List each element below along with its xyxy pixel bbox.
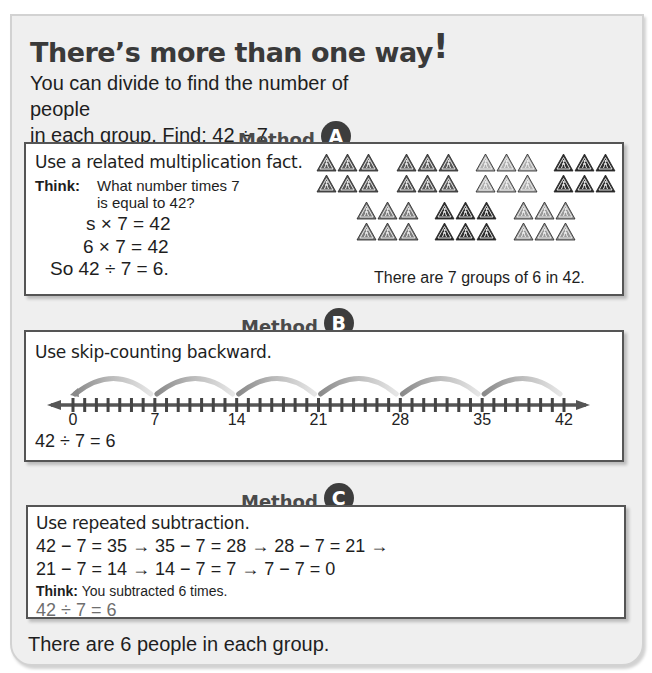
pedestrian-warning-sign-icon (337, 174, 358, 193)
page-title: There’s more than one way! (30, 30, 448, 70)
jump-arc (239, 379, 315, 395)
pedestrian-warning-sign-icon (438, 174, 459, 193)
pedestrian-warning-sign-icon (358, 153, 379, 172)
equation-2: 6 × 7 = 42 (83, 235, 169, 258)
title-exclaim: ! (433, 26, 448, 66)
tick-mark (282, 398, 285, 412)
people-group (434, 201, 497, 241)
people-group (475, 153, 538, 193)
pedestrian-warning-sign-icon (417, 153, 438, 172)
tick-mark (223, 398, 226, 412)
tick-mark (457, 398, 460, 412)
think-label: Think: (35, 177, 97, 194)
tick-mark (72, 398, 75, 412)
tick-mark (551, 398, 554, 412)
jump-arc (402, 379, 478, 395)
pedestrian-warning-sign-icon (475, 153, 496, 172)
pedestrian-warning-sign-icon (396, 174, 417, 193)
tick-mark (305, 398, 308, 412)
pedestrian-warning-sign-icon (595, 174, 616, 193)
tick-mark (399, 398, 402, 412)
pedestrian-warning-sign-icon (398, 201, 419, 220)
pedestrian-warning-sign-icon (476, 222, 497, 241)
tick-mark (83, 398, 86, 412)
tick-mark (516, 398, 519, 412)
pedestrian-warning-sign-icon (513, 201, 534, 220)
tick-mark (411, 398, 414, 412)
tick-mark (469, 398, 472, 412)
tick-mark (317, 398, 320, 412)
arrow-head-icon (70, 388, 79, 397)
method-a-heading: Use a related multiplication fact. (35, 152, 303, 172)
tick-mark (153, 398, 156, 412)
think-text: You subtracted 6 times. (82, 583, 228, 599)
tick-mark (539, 398, 542, 412)
tick-mark (446, 398, 449, 412)
jump-arc (157, 379, 233, 395)
tick-mark (107, 398, 110, 412)
tick-mark (527, 398, 530, 412)
people-group (396, 153, 459, 193)
pedestrian-warning-sign-icon (358, 174, 379, 193)
tick-mark (165, 398, 168, 412)
pedestrian-warning-sign-icon (595, 153, 616, 172)
pedestrian-warning-sign-icon (555, 222, 576, 241)
pedestrian-warning-sign-icon (337, 153, 358, 172)
tick-mark (340, 398, 343, 412)
groups-caption: There are 7 groups of 6 in 42. (374, 269, 585, 287)
pedestrian-warning-sign-icon (574, 174, 595, 193)
tick-mark (422, 398, 425, 412)
tick-label: 42 (555, 411, 573, 428)
tick-mark (142, 398, 145, 412)
people-group (553, 153, 616, 193)
method-b-result: 42 ÷ 7 = 6 (35, 430, 115, 453)
tick-mark (352, 398, 355, 412)
pedestrian-warning-sign-icon (534, 222, 555, 241)
pedestrian-warning-sign-icon (377, 201, 398, 220)
pedestrian-warning-sign-icon (553, 174, 574, 193)
tick-label: 14 (228, 411, 246, 428)
jump-arc (75, 379, 151, 395)
method-c-heading: Use repeated subtraction. (36, 513, 250, 533)
pedestrian-warning-sign-icon (574, 153, 595, 172)
people-group (356, 201, 419, 241)
tick-mark (492, 398, 495, 412)
tick-mark (95, 398, 98, 412)
pedestrian-warning-sign-icon (517, 153, 538, 172)
tick-mark (481, 398, 484, 412)
method-c-result: 42 ÷ 7 = 6 (36, 599, 116, 622)
pedestrian-warning-sign-icon (316, 153, 337, 172)
pedestrian-warning-sign-icon (496, 174, 517, 193)
tick-mark (504, 398, 507, 412)
think-line-2: is equal to 42? (97, 194, 195, 211)
equation-3: So 42 ÷ 7 = 6. (50, 257, 169, 280)
pedestrian-warning-sign-icon (398, 222, 419, 241)
equation-1: s × 7 = 42 (86, 212, 171, 235)
pedestrian-warning-sign-icon (434, 201, 455, 220)
pedestrian-warning-sign-icon (356, 222, 377, 241)
tick-mark (200, 398, 203, 412)
pedestrian-warning-sign-icon (316, 174, 337, 193)
intro-line-1: You can divide to find the number of peo… (30, 70, 370, 122)
tick-mark (270, 398, 273, 412)
method-b-box: Use skip-counting backward. 071421283542… (24, 330, 624, 462)
pedestrian-warning-sign-icon (534, 201, 555, 220)
tick-mark (235, 398, 238, 412)
pedestrian-warning-sign-icon (496, 153, 517, 172)
tick-mark (387, 398, 390, 412)
people-group (513, 201, 576, 241)
tick-mark (375, 398, 378, 412)
tick-label: 21 (310, 411, 328, 428)
subtraction-line-1: 42 − 7 = 35 → 35 − 7 = 28 → 28 − 7 = 21 … (36, 535, 388, 558)
tick-mark (434, 398, 437, 412)
tick-label: 35 (473, 411, 491, 428)
title-text: There’s more than one way (30, 37, 433, 68)
think-line-1: What number times 7 (97, 177, 240, 194)
jump-arc (484, 379, 560, 395)
method-c-think: Think: You subtracted 6 times. (36, 583, 227, 599)
tick-mark (563, 398, 566, 412)
tick-label: 0 (69, 411, 78, 428)
pedestrian-warning-sign-icon (434, 222, 455, 241)
tick-mark (259, 398, 262, 412)
tick-mark (118, 398, 121, 412)
